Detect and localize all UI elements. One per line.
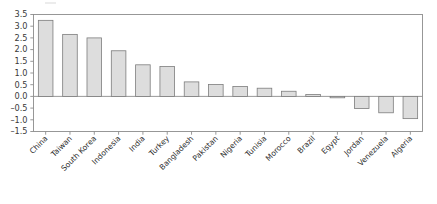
y-tick-label: –0.5 <box>10 103 27 113</box>
bar-series <box>38 20 417 118</box>
y-tick-label: 0.5 <box>14 80 27 90</box>
bar <box>209 84 224 96</box>
x-tick-label: Nigeria <box>218 134 244 160</box>
bar <box>233 87 248 97</box>
y-tick-label: 2.0 <box>14 44 27 54</box>
y-tick-label: 0.0 <box>14 91 27 101</box>
x-tick-label: India <box>127 134 147 154</box>
bar <box>63 34 78 96</box>
y-tick-label: 3.5 <box>14 9 27 19</box>
bar <box>136 65 151 97</box>
bar <box>379 96 394 112</box>
bar <box>330 96 345 97</box>
bar <box>184 82 199 97</box>
bar <box>306 95 321 97</box>
x-tick-label: Morocco <box>264 134 293 163</box>
y-tick-label: 3.0 <box>14 21 27 31</box>
y-tick-label: –1.5 <box>10 126 27 136</box>
y-tick-label: 1.0 <box>14 68 27 78</box>
x-tick-label: Pakistan <box>191 134 220 163</box>
bar <box>281 91 296 96</box>
bar <box>403 96 418 118</box>
x-tick-label: Algeria <box>389 134 414 159</box>
bar-chart: 3.53.02.52.01.51.00.50.0–0.5–1.0–1.5Chin… <box>0 0 437 204</box>
x-tick-label: Brazil <box>296 134 317 155</box>
x-tick-label: China <box>28 134 50 156</box>
bar <box>257 88 272 96</box>
chart-canvas: 3.53.02.52.01.51.00.50.0–0.5–1.0–1.5Chin… <box>0 0 437 204</box>
bar <box>160 66 175 96</box>
y-tick-label: 2.5 <box>14 33 27 43</box>
y-axis: 3.53.02.52.01.51.00.50.0–0.5–1.0–1.5 <box>10 9 33 136</box>
bar <box>87 38 102 97</box>
bar <box>38 20 53 96</box>
bar <box>111 51 126 97</box>
y-tick-label: 1.5 <box>14 56 27 66</box>
bar <box>354 96 369 108</box>
x-axis: ChinaTaiwanSouth KoreaIndonesiaIndiaTurk… <box>28 132 414 173</box>
y-tick-label: –1.0 <box>10 115 27 125</box>
x-tick-label: Egypt <box>319 134 341 156</box>
